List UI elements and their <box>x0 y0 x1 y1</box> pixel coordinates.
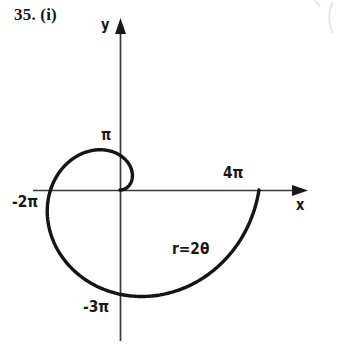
curve-equation-label: r=2θ <box>172 241 209 257</box>
x-axis-label: x <box>296 198 304 213</box>
y-axis-label: y <box>101 18 109 33</box>
polar-spiral-figure: 35. (i) y x π -2π -3π 4π r=2θ <box>0 0 337 352</box>
x-axis-arrowhead <box>292 185 308 196</box>
tick-label-pi: π <box>101 128 111 143</box>
tick-label-negative-three-pi: -3π <box>83 299 109 315</box>
figure-canvas <box>0 0 337 352</box>
tick-label-negative-two-pi: -2π <box>12 194 38 210</box>
tick-label-four-pi: 4π <box>223 165 243 181</box>
y-axis-arrowhead <box>115 18 126 34</box>
problem-number: 35. (i) <box>14 6 57 23</box>
